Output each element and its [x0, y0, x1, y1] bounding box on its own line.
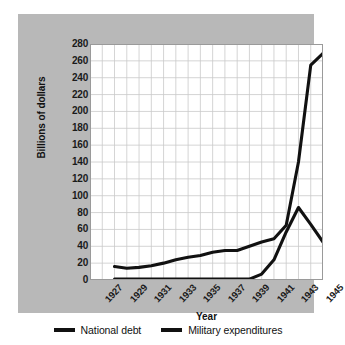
y-tick-label: 20: [48, 258, 88, 268]
y-tick-label: 280: [48, 39, 88, 49]
y-tick-label: 60: [48, 224, 88, 234]
y-tick-label: 180: [48, 123, 88, 133]
y-tick-label: 100: [48, 191, 88, 201]
chart-plot-svg: [90, 44, 323, 280]
x-tick-label: 1935: [201, 282, 223, 304]
legend-entry[interactable]: Military expenditures: [161, 324, 282, 336]
y-tick-label: 220: [48, 90, 88, 100]
y-tick-label: 240: [48, 73, 88, 83]
x-tick-label: 1937: [225, 282, 247, 304]
legend-swatch-icon: [161, 328, 182, 332]
x-tick-label: 1933: [176, 282, 198, 304]
series-line-2: [115, 208, 323, 280]
x-tick-label: 1927: [102, 282, 124, 304]
y-tick-label: 80: [48, 208, 88, 218]
y-tick-label: 140: [48, 157, 88, 167]
x-tick-label: 1945: [323, 282, 345, 304]
chart-legend: National debtMilitary expenditures: [18, 320, 318, 340]
x-tick-label: 1939: [250, 282, 272, 304]
y-tick-label: 0: [48, 275, 88, 285]
grid-lines: [90, 44, 323, 280]
legend-label: Military expenditures: [188, 324, 282, 336]
series-lines: [115, 53, 323, 279]
plot-area: [90, 44, 323, 280]
y-axis-tick-labels: 280260240220200180160140120100806040200: [44, 44, 88, 280]
legend-swatch-icon: [54, 328, 75, 332]
y-tick-label: 200: [48, 106, 88, 116]
x-tick-label: 1931: [152, 282, 174, 304]
y-tick-label: 160: [48, 140, 88, 150]
x-tick-label: 1929: [127, 282, 149, 304]
legend-entry[interactable]: National debt: [54, 324, 142, 336]
y-tick-label: 120: [48, 174, 88, 184]
legend-label: National debt: [81, 324, 142, 336]
series-line-1: [115, 53, 323, 268]
x-tick-label: 1941: [274, 282, 296, 304]
y-tick-label: 40: [48, 241, 88, 251]
y-tick-label: 260: [48, 56, 88, 66]
x-tick-label: 1943: [299, 282, 321, 304]
chart-panel: Billions of dollars 28026024022020018016…: [18, 14, 314, 313]
